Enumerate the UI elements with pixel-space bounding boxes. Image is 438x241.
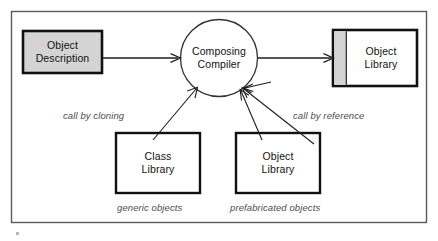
diagram-canvas: Object Description Composing Compiler Ob…	[0, 0, 438, 241]
caption-generic-objects: generic objects	[117, 202, 182, 213]
composing-compiler-circle	[181, 20, 258, 97]
edge-compiler-to-object-library	[258, 54, 334, 63]
object-library-output-spine	[334, 31, 346, 84]
object-description-box	[23, 31, 102, 73]
edge-description-to-compiler	[103, 54, 181, 63]
class-library-box	[116, 133, 200, 193]
object-library-input-box	[236, 133, 320, 193]
edge-label-call-by-reference: call by reference	[293, 110, 364, 121]
scan-artifact-mark	[16, 232, 19, 235]
caption-prefabricated-objects: prefabricated objects	[230, 202, 320, 213]
edge-label-call-by-cloning: call by cloning	[63, 110, 124, 121]
